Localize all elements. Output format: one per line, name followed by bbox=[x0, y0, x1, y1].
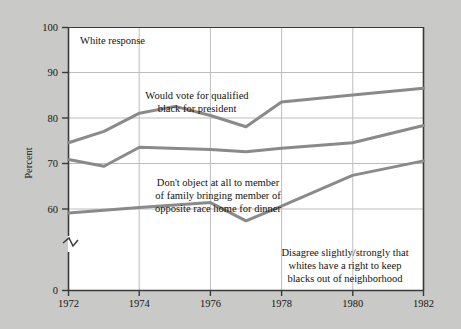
ytick-label-100: 100 bbox=[42, 22, 58, 33]
annotation-neighborhood-line-1: Disagree slightly/strongly that bbox=[281, 247, 408, 258]
y-axis-title: Percent bbox=[23, 147, 34, 179]
annotation-vote-line-2: black for president bbox=[158, 103, 237, 114]
annotation-dinner-line-1: Don't object at all to member bbox=[157, 177, 280, 188]
chart-figure: 100 90 80 70 60 0 1972 1974 1976 1978 19… bbox=[0, 0, 461, 329]
xtick-label-1978: 1978 bbox=[271, 298, 292, 309]
annotation-vote-line-1: Would vote for qualified bbox=[145, 90, 249, 101]
annotation-disagree-neighborhood: Disagree slightly/strongly that whites h… bbox=[281, 247, 408, 284]
line-chart-svg: 100 90 80 70 60 0 1972 1974 1976 1978 19… bbox=[0, 0, 461, 329]
xtick-label-1980: 1980 bbox=[342, 298, 363, 309]
ytick-label-90: 90 bbox=[48, 67, 59, 78]
annotation-neighborhood-line-2: whites have a right to keep bbox=[289, 260, 402, 271]
xtick-label-1976: 1976 bbox=[200, 298, 221, 309]
ytick-label-70: 70 bbox=[48, 158, 59, 169]
annotation-dinner-line-3: opposite race home for dinner bbox=[155, 203, 281, 214]
xtick-label-1972: 1972 bbox=[58, 298, 79, 309]
xtick-label-1974: 1974 bbox=[129, 298, 151, 309]
annotation-dinner-line-2: of family bringing member of bbox=[155, 190, 281, 201]
annotation-dont-object-dinner: Don't object at all to member of family … bbox=[155, 177, 281, 214]
ytick-label-80: 80 bbox=[48, 113, 59, 124]
annotation-neighborhood-line-3: blacks out of neighborhood bbox=[287, 273, 403, 284]
ytick-label-60: 60 bbox=[48, 204, 59, 215]
xtick-label-1982: 1982 bbox=[413, 298, 434, 309]
chart-inner-title: White response bbox=[80, 35, 145, 46]
ytick-label-0: 0 bbox=[53, 285, 58, 296]
